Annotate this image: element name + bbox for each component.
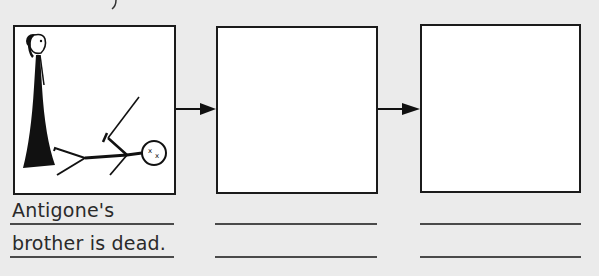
svg-text:x: x	[148, 147, 152, 155]
svg-text:x: x	[155, 152, 159, 160]
caption-line-1: Antigone's	[12, 199, 114, 221]
writing-line[interactable]	[10, 256, 174, 258]
arrow-right-icon	[378, 102, 420, 116]
arrow-right-icon	[176, 102, 216, 116]
partial-text-glyph	[110, 0, 120, 12]
story-panel-1: x x	[13, 25, 176, 195]
writing-line[interactable]	[420, 256, 581, 258]
writing-line[interactable]	[215, 223, 377, 225]
writing-line[interactable]	[10, 223, 174, 225]
story-panel-3[interactable]	[420, 24, 581, 193]
antigone-dead-brother-illustration: x x	[15, 27, 174, 193]
writing-line[interactable]	[420, 223, 581, 225]
writing-line[interactable]	[215, 256, 377, 258]
caption-line-2: brother is dead.	[12, 232, 166, 254]
story-panel-2[interactable]	[216, 26, 378, 194]
